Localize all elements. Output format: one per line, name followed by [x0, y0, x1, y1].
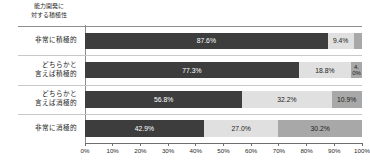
bar-segment: 30.2% [278, 120, 362, 137]
axis-tick-label: 80% [300, 147, 312, 154]
axis-tick-mark [362, 143, 363, 146]
bar-segment: 87.6% [85, 33, 328, 50]
bar-segment: 18.8% [299, 62, 351, 79]
bar-track: 56.8%32.2%10.9% [85, 91, 362, 108]
bar-segment-value: 32.2% [277, 96, 296, 103]
axis-tick-mark [140, 143, 141, 146]
chart-row: どちらかと言えば積極的77.3%18.8%4.0% [0, 55, 367, 84]
bar-segment-value: 18.8% [315, 67, 334, 74]
bar-segment: 77.3% [85, 62, 299, 79]
chart-row: 非常に消極的42.9%27.0%30.2% [0, 114, 367, 143]
axis-tick-label: 100% [354, 147, 370, 154]
axis-tick-label: 70% [273, 147, 285, 154]
axis-tick-label: 30% [162, 147, 174, 154]
axis-tick-mark [85, 143, 86, 146]
row-label-line: どちらかと [35, 90, 77, 99]
bar-segment: 9.4% [328, 33, 354, 50]
bar-segment: 42.9% [85, 120, 204, 137]
bar-segment-value: 10.9% [337, 96, 356, 103]
axis-tick-label: 60% [245, 147, 257, 154]
axis-tick-mark [251, 143, 252, 146]
bar-segment: 4.0% [351, 62, 362, 79]
row-label-line: 非常に消極的 [35, 124, 77, 133]
column-header: 能力開発に 対する積極性 [18, 2, 80, 19]
bar-segment: 32.2% [242, 91, 331, 108]
row-label: 非常に積極的 [18, 26, 80, 55]
bar-segment: 10.9% [332, 91, 362, 108]
axis-tick-mark [306, 143, 307, 146]
row-label-line: 言えば消極的 [35, 99, 77, 108]
bar-segment-value: 87.6% [197, 37, 216, 44]
row-label: どちらかと言えば積極的 [18, 55, 80, 84]
axis-tick-label: 0% [81, 147, 90, 154]
bar-segment-value: 42.9% [135, 125, 154, 132]
axis-tick-label: 50% [217, 147, 229, 154]
bar-segment [354, 33, 362, 50]
axis-tick-mark [168, 143, 169, 146]
row-label: 非常に消極的 [18, 114, 80, 143]
axis-tick-label: 40% [190, 147, 202, 154]
row-label-line: どちらかと [35, 61, 77, 70]
axis-tick-mark [278, 143, 279, 146]
chart-rows: 非常に積極的87.6%9.4%どちらかと言えば積極的77.3%18.8%4.0%… [0, 26, 367, 143]
column-header-line1: 能力開発に [18, 2, 80, 11]
axis-tick-label: 20% [134, 147, 146, 154]
bar-segment-value: 27.0% [231, 125, 250, 132]
chart-row: 非常に積極的87.6%9.4% [0, 26, 367, 55]
bar-track: 87.6%9.4% [85, 33, 362, 50]
axis-tick-mark [223, 143, 224, 146]
chart-row: どちらかと言えば消極的56.8%32.2%10.9% [0, 85, 367, 114]
bar-segment: 27.0% [204, 120, 279, 137]
bar-segment-value: 9.4% [333, 37, 349, 44]
axis-tick-mark [195, 143, 196, 146]
bar-segment-value: 77.3% [182, 67, 201, 74]
bar-segment-value: 30.2% [311, 125, 330, 132]
bar-track: 42.9%27.0%30.2% [85, 120, 362, 137]
row-label: どちらかと言えば消極的 [18, 85, 80, 114]
bar-track: 77.3%18.8%4.0% [85, 62, 362, 79]
axis-tick-mark [334, 143, 335, 146]
bar-segment-value: 56.8% [154, 96, 173, 103]
column-header-line2: 対する積極性 [18, 11, 80, 20]
bar-segment-value: 4.0% [351, 64, 362, 76]
bar-segment: 56.8% [85, 91, 242, 108]
row-label-line: 非常に積極的 [35, 36, 77, 45]
axis-tick-mark [112, 143, 113, 146]
axis-tick-label: 10% [106, 147, 118, 154]
row-label-line: 言えば積極的 [35, 70, 77, 79]
axis-tick-label: 90% [328, 147, 340, 154]
